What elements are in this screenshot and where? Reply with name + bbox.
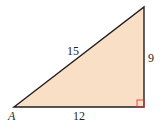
vertical-side-label: 9: [148, 51, 154, 65]
hypotenuse-label: 15: [67, 44, 79, 58]
triangle-diagram: 15 9 12 A: [0, 0, 162, 134]
triangle: [14, 7, 144, 107]
vertex-a-label: A: [7, 109, 16, 123]
base-label: 12: [73, 109, 85, 123]
